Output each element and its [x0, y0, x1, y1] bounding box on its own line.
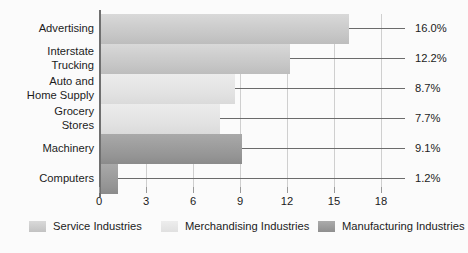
- value-label-grocery-stores: 7.7%: [415, 112, 441, 124]
- x-tick-label-12: 12: [281, 195, 293, 207]
- leader-line-grocery: [219, 118, 405, 119]
- legend-item-merchandising-industries[interactable]: Merchandising Industries: [161, 220, 309, 232]
- legend-item-manufacturing-industries[interactable]: Manufacturing Industries: [318, 220, 465, 232]
- category-label-machinery: Machinery: [42, 142, 94, 156]
- leader-line-computers: [118, 178, 405, 179]
- legend-label-manufacturing: Manufacturing Industries: [342, 220, 465, 232]
- value-label-machinery: 9.1%: [415, 142, 441, 154]
- legend-swatch-icon-manufacturing: [318, 221, 335, 232]
- leader-line-advertising: [348, 28, 405, 29]
- legend-label-merchandising: Merchandising Industries: [185, 220, 309, 232]
- x-tick-18: [381, 187, 382, 193]
- bar-advertising[interactable]: [99, 14, 349, 44]
- x-tick-0: [99, 187, 100, 193]
- x-tick-label-6: 6: [190, 195, 196, 207]
- bar-computers[interactable]: [99, 164, 118, 194]
- x-axis: 0 3 6 9 12 15 18: [0, 193, 468, 215]
- x-tick-6: [193, 187, 194, 193]
- bar-auto-and-home-supply[interactable]: [99, 74, 235, 104]
- gridline-18: [381, 14, 382, 193]
- bar-grocery-stores[interactable]: [99, 104, 220, 134]
- x-tick-9: [240, 187, 241, 193]
- bar-interstate-trucking[interactable]: [99, 44, 290, 74]
- bar-machinery[interactable]: [99, 134, 242, 164]
- value-label-computers: 1.2%: [415, 172, 441, 184]
- x-tick-label-15: 15: [328, 195, 340, 207]
- leader-line-auto: [235, 88, 405, 89]
- category-label-interstate-trucking: Interstate Trucking: [47, 45, 94, 72]
- leader-line-trucking: [289, 58, 405, 59]
- value-label-auto-and-home-supply: 8.7%: [415, 82, 441, 94]
- x-tick-15: [334, 187, 335, 193]
- category-label-computers: Computers: [39, 172, 94, 186]
- category-label-advertising: Advertising: [39, 22, 94, 36]
- x-tick-label-9: 9: [237, 195, 243, 207]
- category-label-auto-and-home-supply: Auto and Home Supply: [27, 75, 94, 102]
- chart-legend: Service Industries Merchandising Industr…: [0, 220, 468, 240]
- x-tick-label-0: 0: [96, 195, 102, 207]
- leader-line-machinery: [241, 148, 405, 149]
- legend-swatch-icon-service: [29, 221, 46, 232]
- value-label-interstate-trucking: 12.2%: [415, 52, 447, 64]
- legend-label-service: Service Industries: [53, 220, 142, 232]
- legend-swatch-icon-merchandising: [161, 221, 178, 232]
- value-label-advertising: 16.0%: [415, 22, 447, 34]
- legend-item-service-industries[interactable]: Service Industries: [29, 220, 142, 232]
- x-tick-label-18: 18: [375, 195, 387, 207]
- category-label-grocery-stores: Grocery Stores: [54, 105, 94, 132]
- x-tick-label-3: 3: [143, 195, 149, 207]
- x-tick-3: [146, 187, 147, 193]
- x-tick-12: [287, 187, 288, 193]
- plot-area: [99, 14, 389, 193]
- y-axis-line: [99, 10, 101, 197]
- bar-chart: Advertising Interstate Trucking Auto and…: [0, 0, 468, 253]
